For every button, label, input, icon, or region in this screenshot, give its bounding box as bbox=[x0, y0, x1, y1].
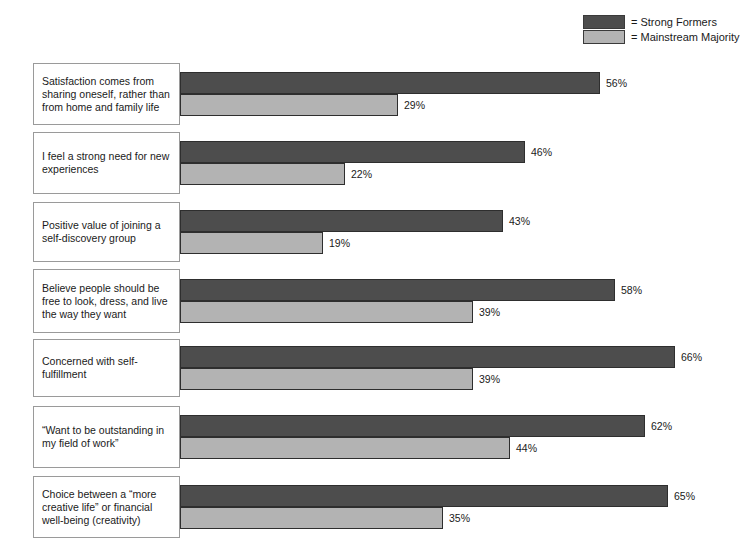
category-label-line: Choice between a “more bbox=[42, 488, 156, 501]
bar-value-mainstream-majority: 29% bbox=[404, 99, 425, 111]
bar-mainstream-majority bbox=[180, 437, 510, 459]
bar-group: Choice between a “morecreative life” or … bbox=[0, 476, 736, 538]
category-label-box: “Want to be outstanding inmy field of wo… bbox=[33, 406, 180, 468]
category-label-box: I feel a strong need for newexperiences bbox=[33, 132, 180, 194]
bar-value-mainstream-majority: 44% bbox=[516, 442, 537, 454]
category-label-line: Positive value of joining a bbox=[42, 219, 161, 232]
category-label-box: Positive value of joining aself-discover… bbox=[33, 202, 180, 262]
category-label-box: Believe people should befree to look, dr… bbox=[33, 269, 180, 333]
category-label-line: Concerned with self-fulfillment bbox=[42, 355, 179, 381]
category-label-line: my field of work” bbox=[42, 437, 164, 450]
bar-value-mainstream-majority: 19% bbox=[329, 237, 350, 249]
category-label-box: Satisfaction comes fromsharing oneself, … bbox=[33, 63, 180, 125]
category-label: Believe people should befree to look, dr… bbox=[42, 282, 167, 321]
bar-group: “Want to be outstanding inmy field of wo… bbox=[0, 406, 736, 468]
bar-mainstream-majority bbox=[180, 232, 323, 254]
bar-strong-formers bbox=[180, 346, 675, 368]
bar-mainstream-majority bbox=[180, 94, 398, 116]
bar-group: Concerned with self-fulfillment66%39% bbox=[0, 339, 736, 397]
bar-mainstream-majority bbox=[180, 507, 443, 529]
bar-strong-formers bbox=[180, 415, 645, 437]
category-label-line: creative life” or financial bbox=[42, 501, 156, 514]
bar-mainstream-majority bbox=[180, 301, 473, 323]
category-label: Satisfaction comes fromsharing oneself, … bbox=[42, 75, 170, 114]
category-label-line: Believe people should be bbox=[42, 282, 167, 295]
bar-value-strong-formers: 58% bbox=[621, 284, 642, 296]
bar-group: Satisfaction comes fromsharing oneself, … bbox=[0, 63, 736, 125]
category-label-line: free to look, dress, and live bbox=[42, 295, 167, 308]
bar-mainstream-majority bbox=[180, 368, 473, 390]
bar-value-strong-formers: 66% bbox=[681, 351, 702, 363]
category-label-line: I feel a strong need for new bbox=[42, 150, 169, 163]
bar-strong-formers bbox=[180, 141, 525, 163]
category-label-line: “Want to be outstanding in bbox=[42, 424, 164, 437]
bar-strong-formers bbox=[180, 485, 668, 507]
category-label-line: from home and family life bbox=[42, 101, 170, 114]
bar-strong-formers bbox=[180, 210, 503, 232]
category-label: Positive value of joining aself-discover… bbox=[42, 219, 161, 245]
category-label: I feel a strong need for newexperiences bbox=[42, 150, 169, 176]
category-label: Choice between a “morecreative life” or … bbox=[42, 488, 156, 527]
category-label-line: self-discovery group bbox=[42, 232, 161, 245]
bar-value-strong-formers: 62% bbox=[651, 420, 672, 432]
bar-value-mainstream-majority: 22% bbox=[351, 168, 372, 180]
category-label-box: Choice between a “morecreative life” or … bbox=[33, 476, 180, 538]
bar-value-strong-formers: 43% bbox=[509, 215, 530, 227]
category-label-line: sharing oneself, rather than bbox=[42, 88, 170, 101]
category-label-box: Concerned with self-fulfillment bbox=[33, 339, 180, 397]
category-label: “Want to be outstanding inmy field of wo… bbox=[42, 424, 164, 450]
category-label-line: the way they want bbox=[42, 308, 167, 321]
bar-mainstream-majority bbox=[180, 163, 345, 185]
bar-value-mainstream-majority: 39% bbox=[479, 373, 500, 385]
bar-group: Believe people should befree to look, dr… bbox=[0, 269, 736, 333]
category-label-line: well-being (creativity) bbox=[42, 514, 156, 527]
bar-strong-formers bbox=[180, 72, 600, 94]
bar-group: Positive value of joining aself-discover… bbox=[0, 202, 736, 262]
bar-value-mainstream-majority: 35% bbox=[449, 512, 470, 524]
bar-value-strong-formers: 46% bbox=[531, 146, 552, 158]
category-label: Concerned with self-fulfillment bbox=[42, 355, 179, 381]
category-label-line: experiences bbox=[42, 163, 169, 176]
bar-strong-formers bbox=[180, 279, 615, 301]
bar-value-strong-formers: 65% bbox=[674, 490, 695, 502]
bar-value-strong-formers: 56% bbox=[606, 77, 627, 89]
bar-value-mainstream-majority: 39% bbox=[479, 306, 500, 318]
bar-group: I feel a strong need for newexperiences4… bbox=[0, 132, 736, 194]
category-label-line: Satisfaction comes from bbox=[42, 75, 170, 88]
